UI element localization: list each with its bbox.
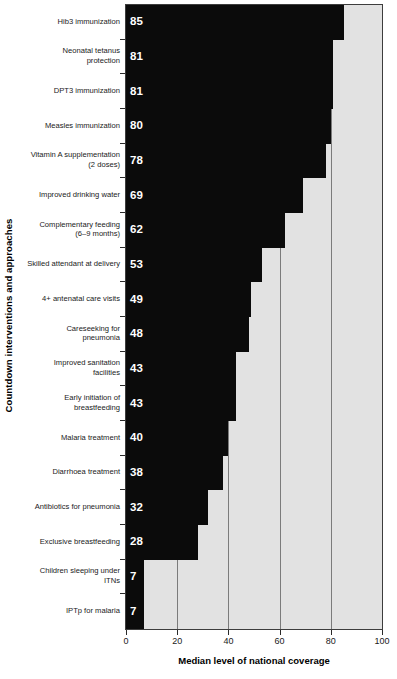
bar xyxy=(126,144,326,179)
bar xyxy=(126,5,344,40)
bar-chart-figure: Countdown interventions and approaches H… xyxy=(0,0,397,679)
category-label-text: Exclusive breastfeeding xyxy=(40,537,120,547)
bar-value-label: 49 xyxy=(130,294,143,306)
category-label-text: Diarrhoea treatment xyxy=(52,467,120,477)
bar-value-label: 85 xyxy=(130,16,143,28)
category-label: Improved drinking water xyxy=(18,177,124,212)
bar-value-label: 43 xyxy=(130,363,143,375)
x-axis-tick-label: 100 xyxy=(374,636,389,646)
category-label-text: Improved drinking water xyxy=(39,190,120,200)
category-label-text: Hib3 immunization xyxy=(58,17,120,27)
bar xyxy=(126,178,303,213)
category-label-text: Antibiotics for pneumonia xyxy=(35,502,120,512)
y-axis-title: Countdown interventions and approaches xyxy=(0,0,18,630)
x-axis-tick xyxy=(177,630,178,635)
bar-value-label: 69 xyxy=(130,190,143,202)
category-label: Vitamin A supplementation(2 doses) xyxy=(18,143,124,178)
bar-value-label: 32 xyxy=(130,502,143,514)
x-axis-tick-labels: 020406080100 xyxy=(125,636,383,650)
bar-value-label: 80 xyxy=(130,120,143,132)
bar-value-label: 62 xyxy=(130,224,143,236)
x-axis-tick-label: 0 xyxy=(123,636,128,646)
category-label: DPT3 immunization xyxy=(18,73,124,108)
y-axis-title-text: Countdown interventions and approaches xyxy=(4,218,15,412)
x-axis-tick xyxy=(280,630,281,635)
bar-value-label: 38 xyxy=(130,467,143,479)
category-label-text: Early initiation ofbreastfeeding xyxy=(64,393,120,412)
category-label: Exclusive breastfeeding xyxy=(18,524,124,559)
bar xyxy=(126,109,331,144)
x-axis-tick xyxy=(126,630,127,635)
x-axis-tick-label: 60 xyxy=(275,636,285,646)
bar xyxy=(126,213,285,248)
category-label-text: Vitamin A supplementation(2 doses) xyxy=(31,150,120,169)
category-label-text: Careseeking forpneumonia xyxy=(66,324,120,343)
category-label: Antibiotics for pneumonia xyxy=(18,489,124,524)
category-label-text: Complementary feeding(6–9 months) xyxy=(39,220,120,239)
category-label: IPTp for malaria xyxy=(18,593,124,628)
category-label-text: Skilled attendant at delivery xyxy=(27,259,120,269)
category-label-text: 4+ antenatal care visits xyxy=(42,294,120,304)
bar xyxy=(126,317,249,352)
bar-series: 8581818078696253494843434038322877 xyxy=(126,5,382,629)
x-axis-tick-label: 40 xyxy=(223,636,233,646)
bar-value-label: 7 xyxy=(130,571,136,583)
category-label: Malaria treatment xyxy=(18,420,124,455)
category-label-text: DPT3 immunization xyxy=(54,86,120,96)
category-label: 4+ antenatal care visits xyxy=(18,281,124,316)
x-axis-tick xyxy=(228,630,229,635)
x-axis-tick-label: 80 xyxy=(326,636,336,646)
category-label-text: Children sleeping underITNs xyxy=(40,566,120,585)
category-label: Diarrhoea treatment xyxy=(18,455,124,490)
bar xyxy=(126,40,333,75)
category-label-text: IPTp for malaria xyxy=(66,606,120,616)
category-label: Measles immunization xyxy=(18,108,124,143)
bar xyxy=(126,248,262,283)
category-label: Early initiation ofbreastfeeding xyxy=(18,385,124,420)
category-label-text: Neonatal tetanusprotection xyxy=(63,46,120,65)
x-axis-title: Median level of national coverage xyxy=(125,655,383,666)
bar xyxy=(126,282,251,317)
category-label: Children sleeping underITNs xyxy=(18,559,124,594)
category-label: Careseeking forpneumonia xyxy=(18,316,124,351)
bar-value-label: 40 xyxy=(130,432,143,444)
plot-area: 8581818078696253494843434038322877 xyxy=(125,4,383,630)
category-label-text: Measles immunization xyxy=(45,121,120,131)
category-label: Neonatal tetanusprotection xyxy=(18,39,124,74)
bar-value-label: 81 xyxy=(130,86,143,98)
bar-value-label: 28 xyxy=(130,536,143,548)
category-label-text: Malaria treatment xyxy=(61,433,120,443)
bar xyxy=(126,74,333,109)
bar-value-label: 43 xyxy=(130,398,143,410)
x-axis-tick xyxy=(382,630,383,635)
category-label-column: Hib3 immunizationNeonatal tetanusprotect… xyxy=(18,4,124,630)
category-label: Improved sanitationfacilities xyxy=(18,351,124,386)
category-label: Complementary feeding(6–9 months) xyxy=(18,212,124,247)
bar-value-label: 48 xyxy=(130,328,143,340)
x-axis-tick xyxy=(331,630,332,635)
bar-value-label: 78 xyxy=(130,155,143,167)
category-label: Skilled attendant at delivery xyxy=(18,247,124,282)
bar-value-label: 81 xyxy=(130,51,143,63)
bar-value-label: 7 xyxy=(130,606,136,618)
category-label: Hib3 immunization xyxy=(18,4,124,39)
category-label-text: Improved sanitationfacilities xyxy=(54,358,120,377)
x-axis-tick-label: 20 xyxy=(172,636,182,646)
bar-value-label: 53 xyxy=(130,259,143,271)
